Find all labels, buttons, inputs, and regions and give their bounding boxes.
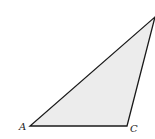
vertex-label-a: A (18, 121, 26, 132)
triangle-shape (30, 17, 155, 126)
vertex-label-c: C (130, 123, 138, 134)
triangle-diagram: A C (0, 0, 155, 139)
